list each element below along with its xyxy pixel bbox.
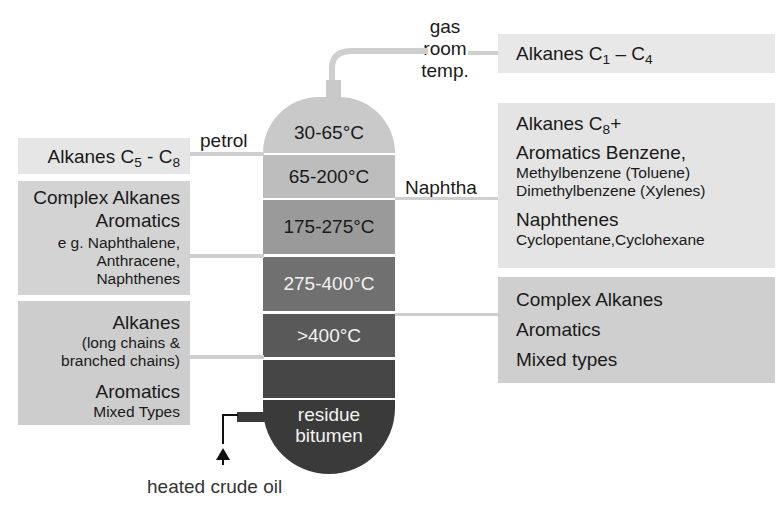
gas-outlet-pipe xyxy=(320,40,430,85)
column-section-275-400: 275-400°C xyxy=(263,257,395,311)
column-section-30-65: 30-65°C xyxy=(263,97,395,153)
crude-inlet-line-h xyxy=(222,414,238,416)
gas-connector-line xyxy=(468,51,500,55)
crude-inlet-line-v xyxy=(222,414,224,444)
kerosene-fraction-box: Complex Alkanes Aromatics e g. Naphthale… xyxy=(18,181,190,295)
gasoil-fraction-box: Complex Alkanes Aromatics Mixed types xyxy=(498,277,775,383)
naphtha-fraction-box: Alkanes C8+ Aromatics Benzene, Methylben… xyxy=(498,103,775,268)
naphtha-label: Naphtha xyxy=(405,177,477,199)
column-section-65-200: 65-200°C xyxy=(263,155,395,198)
gas-label-line1: gas xyxy=(410,16,480,38)
petrol-connector-line xyxy=(190,152,264,156)
column-section-over-400: >400°C xyxy=(263,314,395,357)
heavy-fraction-box: Alkanes (long chains & branched chains) … xyxy=(18,301,190,425)
heavy-connector-line xyxy=(190,355,264,359)
petrol-fraction-box: Alkanes C5 - C8 xyxy=(18,138,190,174)
column-section-175-275: 175-275°C xyxy=(263,200,395,254)
crude-inlet-pipe xyxy=(237,412,265,422)
column-section-blank xyxy=(263,360,395,398)
gasoil-connector-line xyxy=(395,313,499,316)
arrow-up-icon xyxy=(216,448,230,466)
kerosene-connector-line xyxy=(190,254,264,258)
column-section-residue: residue bitumen xyxy=(263,400,395,474)
gas-fraction-box: Alkanes C1 – C4 xyxy=(498,34,775,73)
petrol-label: petrol xyxy=(200,130,248,152)
heated-crude-oil-label: heated crude oil xyxy=(147,476,282,498)
naphtha-connector-line xyxy=(395,197,499,200)
